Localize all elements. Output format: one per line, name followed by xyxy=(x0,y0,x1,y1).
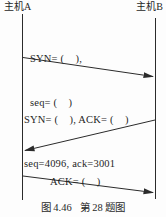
tcp-handshake-figure: 主机A 主机B SYN= ( ), seq= ( ) SYN= ( ), ACK… xyxy=(0,0,166,217)
host-b-label: 主机B xyxy=(136,1,163,13)
figure-caption: 图 4.46 第 28 题图 xyxy=(0,199,166,214)
message-syn-line1: SYN= ( ), xyxy=(30,52,82,67)
host-a-label: 主机A xyxy=(4,1,31,13)
message-synack-line1: SYN= ( ), ACK= ( ) xyxy=(24,113,129,128)
message-ack-line1: ACK= ( ) xyxy=(50,175,100,190)
